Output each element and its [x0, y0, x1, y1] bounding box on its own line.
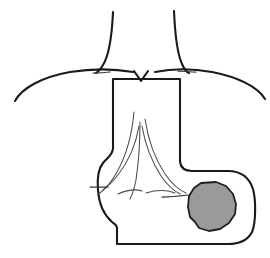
- lesion-shaded-area: [188, 182, 236, 231]
- figure-container: [0, 0, 270, 258]
- anatomical-line-drawing: [0, 0, 270, 258]
